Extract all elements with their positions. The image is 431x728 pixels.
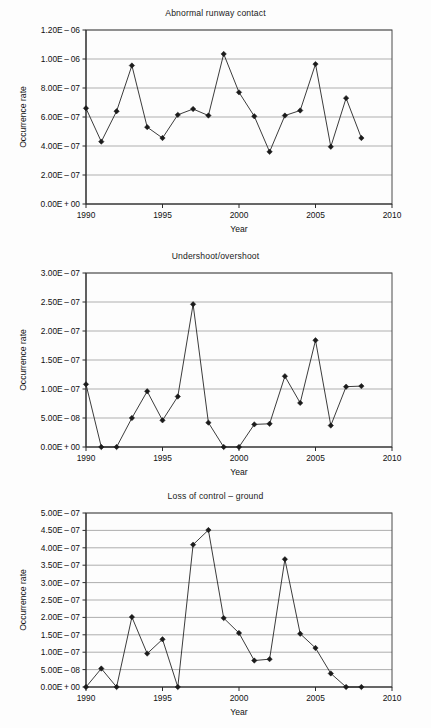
y-tick-label: 2.00E – 07 xyxy=(41,326,81,336)
data-point-marker xyxy=(206,113,211,118)
data-point-marker xyxy=(298,400,303,405)
data-point-marker xyxy=(83,106,88,111)
x-tick-label: 1995 xyxy=(153,453,172,463)
data-point-marker xyxy=(282,374,287,379)
chart-title: Undershoot/overshoot xyxy=(0,251,431,261)
x-axis-title: Year xyxy=(230,467,248,477)
x-tick-label: 1995 xyxy=(153,210,172,220)
data-point-marker xyxy=(129,614,134,619)
x-tick-label: 2000 xyxy=(230,453,249,463)
x-tick-label: 2010 xyxy=(383,210,402,220)
y-tick-label: 2.00E – 07 xyxy=(41,612,81,622)
y-tick-label: 3.50E – 07 xyxy=(41,560,81,570)
data-point-marker xyxy=(252,422,257,427)
x-tick-label: 2010 xyxy=(383,693,402,703)
y-tick-label: 4.00E – 07 xyxy=(41,141,81,151)
data-point-marker xyxy=(236,444,241,449)
data-point-marker xyxy=(129,63,134,68)
data-point-marker xyxy=(267,421,272,426)
data-point-marker xyxy=(328,144,333,149)
x-tick-label: 1990 xyxy=(77,210,96,220)
x-tick-label: 1995 xyxy=(153,693,172,703)
data-point-marker xyxy=(175,394,180,399)
data-point-marker xyxy=(298,108,303,113)
data-point-marker xyxy=(190,106,195,111)
plot-area-undershoot-overshoot: 0.00E + 005.00E – 081.00E – 071.50E – 07… xyxy=(0,243,431,486)
data-point-marker xyxy=(282,113,287,118)
series-line xyxy=(86,54,361,152)
y-tick-label: 3.00E – 07 xyxy=(41,578,81,588)
x-tick-label: 2005 xyxy=(306,453,325,463)
x-tick-label: 2005 xyxy=(306,693,325,703)
chart-figure-loss-of-control-ground: Loss of control – ground 0.00E + 005.00E… xyxy=(0,486,431,728)
data-point-marker xyxy=(175,684,180,689)
plot-area-abnormal-runway-contact: 0.00E + 002.00E – 074.00E – 076.00E – 07… xyxy=(0,0,431,243)
x-axis-title: Year xyxy=(230,707,248,717)
y-tick-label: 1.00E – 07 xyxy=(41,647,81,657)
chart-figure-abnormal-runway-contact: Abnormal runway contact 0.00E + 002.00E … xyxy=(0,0,431,243)
data-point-marker xyxy=(359,684,364,689)
data-point-marker xyxy=(252,114,257,119)
x-tick-label: 2000 xyxy=(230,693,249,703)
data-point-marker xyxy=(114,109,119,114)
y-tick-label: 1.00E – 07 xyxy=(41,384,81,394)
plot-area-loss-of-control-ground: 0.00E + 005.00E – 081.00E – 071.50E – 07… xyxy=(0,486,431,728)
data-point-marker xyxy=(221,444,226,449)
x-axis-title: Year xyxy=(230,224,248,234)
y-tick-label: 5.00E – 08 xyxy=(41,665,81,675)
x-tick-label: 2005 xyxy=(306,210,325,220)
data-point-marker xyxy=(252,658,257,663)
data-point-marker xyxy=(359,135,364,140)
y-tick-label: 2.50E – 07 xyxy=(41,595,81,605)
y-tick-label: 1.00E – 06 xyxy=(41,54,81,64)
data-point-marker xyxy=(114,444,119,449)
y-tick-label: 8.00E – 07 xyxy=(41,83,81,93)
y-tick-label: 4.50E – 07 xyxy=(41,525,81,535)
data-point-marker xyxy=(313,338,318,343)
y-tick-label: 2.00E – 07 xyxy=(41,170,81,180)
y-tick-label: 3.00E – 07 xyxy=(41,268,81,278)
data-point-marker xyxy=(145,389,150,394)
data-point-marker xyxy=(190,302,195,307)
x-tick-label: 2000 xyxy=(230,210,249,220)
series-line xyxy=(86,304,361,447)
chart-title: Abnormal runway contact xyxy=(0,8,431,18)
y-tick-label: 6.00E – 07 xyxy=(41,112,81,122)
y-tick-label: 0.00E + 00 xyxy=(41,199,81,209)
data-point-marker xyxy=(99,444,104,449)
y-tick-label: 1.20E – 06 xyxy=(41,25,81,35)
y-axis-title: Occurrence rate xyxy=(18,86,28,148)
data-point-marker xyxy=(282,557,287,562)
y-tick-label: 1.50E – 07 xyxy=(41,355,81,365)
data-point-marker xyxy=(236,90,241,95)
data-point-marker xyxy=(267,656,272,661)
x-tick-label: 2010 xyxy=(383,453,402,463)
data-point-marker xyxy=(83,382,88,387)
data-point-marker xyxy=(343,95,348,100)
chart-figure-undershoot-overshoot: Undershoot/overshoot 0.00E + 005.00E – 0… xyxy=(0,243,431,486)
data-point-marker xyxy=(359,383,364,388)
y-tick-label: 1.50E – 07 xyxy=(41,630,81,640)
series-line xyxy=(86,530,361,687)
data-point-marker xyxy=(206,420,211,425)
y-tick-label: 4.00E – 07 xyxy=(41,543,81,553)
data-point-marker xyxy=(343,384,348,389)
data-point-marker xyxy=(267,149,272,154)
data-point-marker xyxy=(221,51,226,56)
y-axis-title: Occurrence rate xyxy=(18,329,28,391)
y-axis-title: Occurrence rate xyxy=(18,569,28,631)
y-tick-label: 2.50E – 07 xyxy=(41,297,81,307)
chart-title: Loss of control – ground xyxy=(0,491,431,501)
figure-page: Abnormal runway contact 0.00E + 002.00E … xyxy=(0,0,431,728)
y-tick-label: 5.00E – 08 xyxy=(41,413,81,423)
data-point-marker xyxy=(160,418,165,423)
data-point-marker xyxy=(313,61,318,66)
data-point-marker xyxy=(129,415,134,420)
x-tick-label: 1990 xyxy=(77,453,96,463)
data-point-marker xyxy=(328,423,333,428)
y-tick-label: 5.00E – 07 xyxy=(41,508,81,518)
x-tick-label: 1990 xyxy=(77,693,96,703)
y-tick-label: 0.00E + 00 xyxy=(41,442,81,452)
y-tick-label: 0.00E + 00 xyxy=(41,682,81,692)
data-point-marker xyxy=(99,139,104,144)
